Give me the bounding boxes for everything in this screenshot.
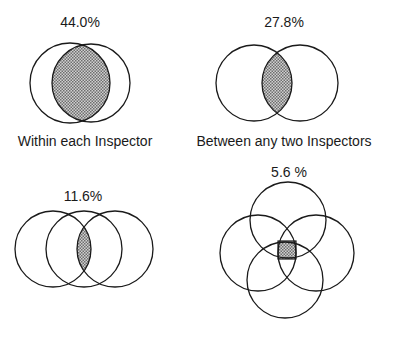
venn-figure <box>0 0 398 340</box>
venn-between-two-inspectors <box>216 45 338 121</box>
venn-within-each-inspector <box>30 43 130 123</box>
caption-within: Within each Inspector <box>18 133 153 149</box>
venn-three-inspectors <box>15 211 153 287</box>
percent-label-four: 5.6 % <box>271 164 307 180</box>
percent-label-within: 44.0% <box>60 14 100 30</box>
venn-four-inspectors <box>220 182 354 318</box>
percent-label-three: 11.6% <box>64 188 103 204</box>
overlap-region <box>278 241 296 259</box>
percent-label-between: 27.8% <box>264 14 304 30</box>
caption-between: Between any two Inspectors <box>196 133 371 149</box>
